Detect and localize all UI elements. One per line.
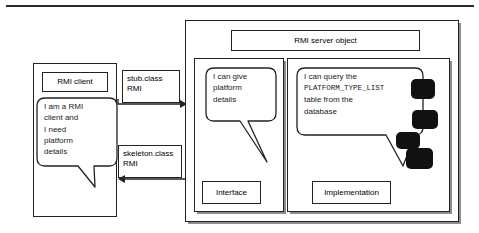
interface-label-box: Interface <box>202 181 261 204</box>
interface-bubble-text: I can give platform details <box>213 71 279 105</box>
implementation-label-box: Implementation <box>312 181 391 204</box>
stub-arrow-to-server <box>117 98 189 110</box>
rmi-server-object-title-box: RMI server object <box>231 30 420 51</box>
top-divider-rule <box>6 5 474 7</box>
impl-bubble-line-3: table from the <box>304 95 353 104</box>
rmi-client-title-box: RMI client <box>42 72 108 92</box>
database-blob-icon-1 <box>411 79 435 99</box>
database-blob-icon-2 <box>412 110 438 129</box>
impl-bubble-line-1: I can query the <box>304 72 357 81</box>
database-blob-icon-3 <box>396 132 420 149</box>
implementation-bubble-text: I can query thePLATFORM_TYPE_LISTtable f… <box>304 71 422 117</box>
client-bubble-text: I am a RMI client and I need platform de… <box>44 101 120 158</box>
database-blob-icon-4 <box>406 148 433 169</box>
skeleton-arrow-to-client <box>115 173 191 185</box>
impl-bubble-table-name: PLATFORM_TYPE_LIST <box>304 84 384 92</box>
impl-bubble-line-4: database <box>304 107 337 116</box>
